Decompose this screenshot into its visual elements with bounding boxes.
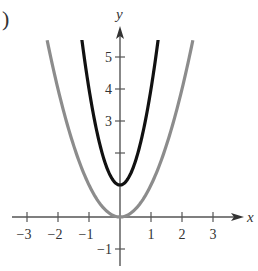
y-tick-label: 5	[105, 50, 112, 65]
x-axis-label: x	[246, 209, 254, 225]
x-tick-label: 1	[148, 227, 155, 242]
x-tick-label: −2	[48, 227, 63, 242]
x-tick-label: 3	[210, 227, 217, 242]
y-tick-label: 3	[105, 114, 112, 129]
tick-labels: −3−2−1123−1345xy	[17, 6, 254, 257]
x-tick-label: −1	[79, 227, 94, 242]
y-axis-label: y	[114, 6, 123, 22]
part-label: )	[2, 6, 9, 31]
x-tick-label: −3	[17, 227, 32, 242]
y-tick-label: 4	[105, 82, 112, 97]
x-tick-label: 2	[179, 227, 186, 242]
y-tick-label: −1	[97, 242, 112, 257]
parabola-chart: ) −3−2−1123−1345xy	[0, 0, 258, 271]
